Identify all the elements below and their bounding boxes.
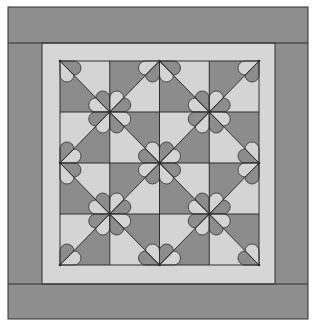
quilt-diagram — [0, 0, 317, 326]
flower-center-dot — [258, 60, 261, 63]
flower-center-dot — [208, 111, 211, 114]
flower-center-dot — [59, 60, 62, 63]
flower-center-dot — [258, 264, 261, 267]
flower-center-dot — [208, 213, 211, 216]
flower-center-dot — [258, 162, 261, 165]
flower-center-dot — [158, 264, 161, 267]
flower-center-dot — [108, 213, 111, 216]
flower-center-dot — [59, 162, 62, 165]
flower-center-dot — [158, 60, 161, 63]
flower-center-dot — [158, 162, 161, 165]
seam-lines — [59, 60, 261, 267]
flower-center-dot — [108, 111, 111, 114]
flower-center-dot — [59, 264, 62, 267]
